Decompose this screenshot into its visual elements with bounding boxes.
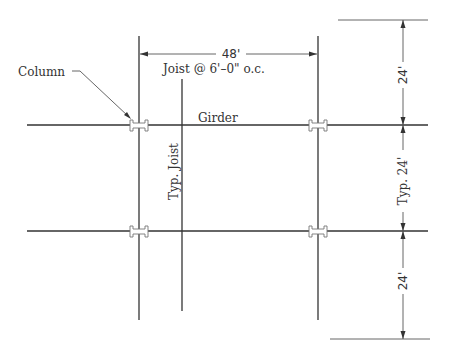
arrow-left-icon: [140, 52, 148, 57]
arrow-up-icon: [401, 20, 406, 28]
arrow-right-icon: [309, 52, 317, 57]
arrow-down-icon: [401, 117, 406, 125]
column-label: Column: [18, 65, 65, 79]
span-dimension-text: 48': [222, 47, 241, 61]
column-leader: [72, 71, 131, 119]
bay-dimension-typ-text: Typ. 24': [396, 157, 410, 206]
arrow-up-icon: [401, 125, 406, 133]
typical-joist-label: Typ. Joist: [167, 143, 181, 200]
bay-dimension-top-text: 24': [396, 66, 410, 85]
girder-label: Girder: [198, 111, 238, 125]
arrow-up-icon: [401, 231, 406, 239]
arrow-down-icon: [401, 331, 406, 339]
framing-plan-drawing: Column 48' Joist @ 6'–0" o.c. Girder Typ…: [0, 0, 451, 361]
joist-spacing-label: Joist @ 6'–0" o.c.: [161, 62, 265, 76]
arrow-down-icon: [401, 223, 406, 231]
bay-dimension-bottom-text: 24': [396, 272, 410, 291]
